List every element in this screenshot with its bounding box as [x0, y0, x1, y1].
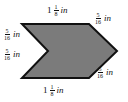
measurement-bottom: 118 in [43, 84, 64, 98]
fraction-denominator: 16 [3, 55, 11, 61]
fraction: 516 [3, 48, 11, 62]
whole-number: 1 [47, 6, 52, 15]
measurement-bottom-right: 516 in [96, 66, 113, 80]
fraction-numerator: 1 [50, 84, 55, 91]
measurement-top-right: 516 in [94, 12, 111, 26]
fraction: 516 [3, 28, 11, 42]
unit-label: in [106, 68, 113, 77]
fraction-denominator: 16 [3, 35, 11, 41]
unit-label: in [13, 30, 20, 39]
fraction-numerator: 5 [5, 48, 10, 55]
fraction: 516 [96, 66, 104, 80]
fraction: 516 [94, 12, 102, 26]
fraction-denominator: 8 [50, 91, 55, 97]
fraction: 18 [50, 84, 55, 98]
fraction-numerator: 5 [5, 28, 10, 35]
fraction-numerator: 5 [98, 66, 103, 73]
fraction: 18 [54, 4, 59, 18]
measurement-top: 118 in [47, 4, 68, 18]
geometry-diagram: 118 in 516 in 516 in 516 in 516 in 118 i… [0, 0, 128, 102]
fraction-numerator: 5 [96, 12, 101, 19]
unit-label: in [13, 50, 20, 59]
fraction-numerator: 1 [54, 4, 59, 11]
fraction-denominator: 16 [94, 19, 102, 25]
unit-label: in [57, 86, 64, 95]
whole-number: 1 [43, 86, 48, 95]
unit-label: in [61, 6, 68, 15]
unit-label: in [104, 14, 111, 23]
measurement-left-upper: 516 in [3, 28, 20, 42]
fraction-denominator: 16 [96, 73, 104, 79]
measurement-left-lower: 516 in [3, 48, 20, 62]
fraction-denominator: 8 [54, 11, 59, 17]
